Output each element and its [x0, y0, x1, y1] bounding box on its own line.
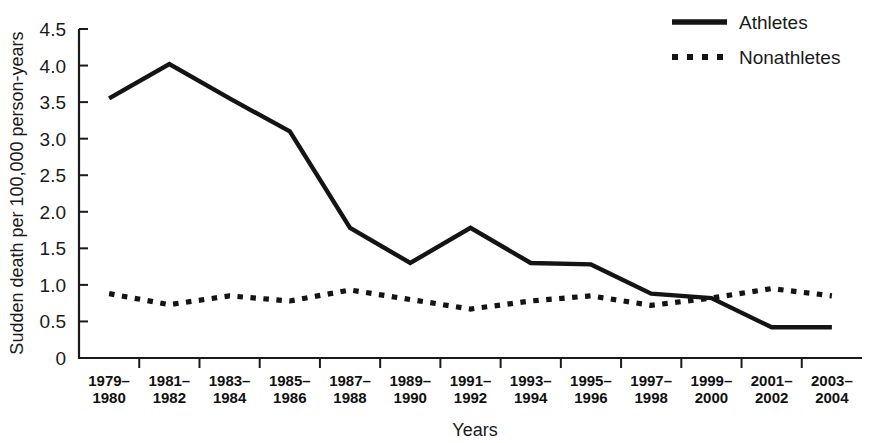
chart-container: 00.51.01.52.02.53.03.54.04.5 1979–198019… — [0, 0, 883, 443]
x-tick-label: 1989–1990 — [389, 372, 431, 406]
y-tick-label: 2.0 — [40, 202, 66, 223]
y-axis-title: Sudden death per 100,000 person-years — [7, 31, 27, 354]
series-line-athletes — [109, 64, 832, 327]
x-tick-label: 1995–1996 — [570, 372, 612, 406]
y-axis-ticks: 00.51.01.52.02.53.03.54.04.5 — [40, 19, 88, 369]
y-tick-label: 1.5 — [40, 238, 66, 259]
x-axis-title: Years — [452, 420, 497, 440]
x-tick-label: 1997–1998 — [630, 372, 672, 406]
x-tick-label: 1981–1982 — [148, 372, 190, 406]
x-tick-label: 2003–2004 — [811, 372, 853, 406]
y-tick-label: 4.5 — [40, 19, 66, 40]
y-tick-label: 0 — [55, 348, 66, 369]
x-tick-label: 2001–2002 — [751, 372, 793, 406]
x-axis-tick-labels: 1979–19801981–19821983–19841985–19861987… — [88, 372, 852, 406]
chart-legend: Athletes Nonathletes — [672, 12, 840, 68]
x-tick-label: 1991–1992 — [450, 372, 492, 406]
x-tick-label: 1983–1984 — [209, 372, 251, 406]
y-tick-label: 1.0 — [40, 275, 66, 296]
x-tick-label: 1985–1986 — [269, 372, 311, 406]
x-tick-label: 1993–1994 — [510, 372, 552, 406]
x-tick-label: 1987–1988 — [329, 372, 371, 406]
x-axis-ticks — [139, 358, 802, 368]
y-tick-label: 3.5 — [40, 92, 66, 113]
legend-label-nonathletes: Nonathletes — [739, 47, 840, 68]
y-tick-label: 0.5 — [40, 311, 66, 332]
x-tick-label: 1979–1980 — [88, 372, 130, 406]
x-tick-label: 1999–2000 — [691, 372, 733, 406]
series-layer — [109, 64, 832, 327]
y-tick-label: 3.0 — [40, 129, 66, 150]
y-tick-label: 2.5 — [40, 165, 66, 186]
line-chart: 00.51.01.52.02.53.03.54.04.5 1979–198019… — [0, 0, 883, 443]
y-tick-label: 4.0 — [40, 56, 66, 77]
legend-label-athletes: Athletes — [739, 12, 808, 33]
